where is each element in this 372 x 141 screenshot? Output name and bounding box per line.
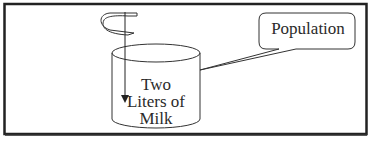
container-label: Two Liters of Milk [112,76,200,127]
callout-label: Population [262,20,354,37]
stirring-spiral-icon [101,13,137,35]
container-label-line-1: Two [112,76,200,93]
container-label-line-2: Liters of [112,93,200,110]
container-label-line-3: Milk [112,110,200,127]
